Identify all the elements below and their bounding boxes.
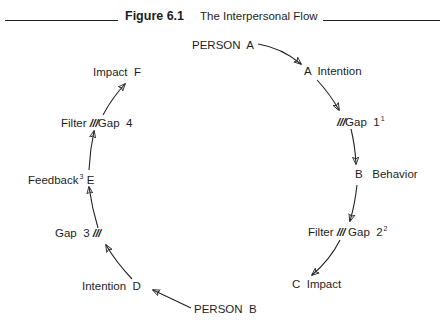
gap2-label: Gap 2 <box>348 226 383 238</box>
gap4-label: Gap 4 <box>98 117 133 129</box>
node-person-b: PERSON B <box>194 302 257 316</box>
node-gap1: ///Gap 11 <box>337 112 385 129</box>
arrow-feedback-e-to-gap4 <box>89 131 94 170</box>
feedback-footnote: 3 <box>80 173 84 180</box>
node-impact-f: Impact F <box>93 65 141 79</box>
arrow-person-b-to-intention-d <box>153 290 191 308</box>
feedback-e-letter: E <box>87 174 95 186</box>
arrow-gap2-to-c-impact <box>312 240 340 275</box>
person-a-label: PERSON A <box>192 39 254 51</box>
arrow-gap3-to-feedback-e <box>89 187 98 228</box>
node-intention-d: Intention D <box>82 279 141 293</box>
arrow-gap1-to-b-behavior <box>351 129 356 164</box>
node-a-intention: A Intention <box>304 64 362 78</box>
b-behavior-label: B Behavior <box>355 168 418 180</box>
node-c-impact: C Impact <box>292 277 341 291</box>
gap3-label: Gap 3 <box>55 227 90 239</box>
node-gap4: Filter ///Gap 4 <box>61 116 132 130</box>
impact-f-label: Impact F <box>93 66 141 78</box>
intention-d-label: Intention D <box>82 280 141 292</box>
gap-slashes-icon: /// <box>337 116 345 128</box>
arrow-gap4-to-impact-f <box>103 84 125 115</box>
gap2-footnote: 2 <box>384 225 388 232</box>
arrow-a-intention-to-gap1 <box>317 80 339 110</box>
node-gap3: Gap 3 /// <box>55 226 101 240</box>
feedback-label: Feedback <box>28 174 79 186</box>
gap1-footnote: 1 <box>381 115 385 122</box>
a-intention-label: A Intention <box>304 65 362 77</box>
gap2-filter-label: Filter <box>308 226 334 238</box>
gap-slashes-icon: /// <box>90 117 98 129</box>
gap1-label: Gap 1 <box>345 116 380 128</box>
node-person-a: PERSON A <box>192 38 254 52</box>
node-b-behavior: B Behavior <box>355 167 418 181</box>
gap-slashes-icon: /// <box>337 226 345 238</box>
arrow-intention-d-to-gap3 <box>106 245 132 279</box>
gap-slashes-icon: /// <box>93 227 101 239</box>
person-b-label: PERSON B <box>194 303 257 315</box>
c-impact-label: C Impact <box>292 278 341 290</box>
node-gap2: Filter /// Gap 22 <box>308 222 388 239</box>
arrow-person-a-to-a-intention <box>258 44 301 64</box>
gap4-filter-label: Filter <box>61 117 87 129</box>
arrow-b-behavior-to-gap2 <box>350 185 357 221</box>
node-feedback-e: Feedback3 E <box>28 170 94 187</box>
